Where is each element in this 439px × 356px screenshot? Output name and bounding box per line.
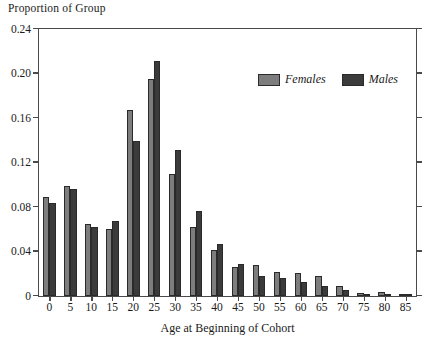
legend-swatch-males (342, 74, 364, 86)
y-axis-tick-label: 0 (25, 290, 31, 302)
bar-group (148, 29, 161, 296)
bar-group (378, 29, 391, 296)
x-axis-tick-label: 10 (86, 302, 98, 314)
bar-group (232, 29, 245, 296)
x-axis-tick-label: 40 (211, 302, 223, 314)
bar-group (315, 29, 328, 296)
bar-group (336, 29, 349, 296)
y-axis-tick-right (416, 161, 422, 162)
bar-group (211, 29, 224, 296)
y-axis-tick-label: 0.16 (11, 112, 31, 124)
y-axis-tick-right (416, 250, 422, 251)
bar-group (127, 29, 140, 296)
bar-group (295, 29, 308, 296)
bar-males-35 (196, 211, 202, 296)
legend-entry-females: Females (258, 72, 326, 87)
bar-males-15 (112, 221, 118, 296)
y-axis-tick-label: 0.04 (11, 246, 31, 258)
y-axis-tick-right (416, 28, 422, 29)
x-axis-title: Age at Beginning of Cohort (38, 321, 417, 336)
x-axis-tick-label: 20 (128, 302, 140, 314)
bars-layer (39, 29, 416, 296)
x-axis-tick-label: 0 (47, 302, 53, 314)
bar-group (253, 29, 266, 296)
bar-group (106, 29, 119, 296)
bar-group (274, 29, 287, 296)
y-axis-tick-right (416, 295, 422, 296)
bar-males-65 (322, 286, 328, 296)
x-axis-tick-label: 25 (148, 302, 160, 314)
bar-group (357, 29, 370, 296)
x-axis-tick-label: 45 (232, 302, 244, 314)
y-axis-title: Proportion of Group (8, 2, 106, 14)
bar-males-40 (217, 244, 223, 296)
chart-legend: FemalesMales (258, 72, 398, 87)
bar-males-75 (364, 294, 370, 296)
bar-group (43, 29, 56, 296)
bar-group (190, 29, 203, 296)
x-axis-tick-label: 50 (253, 302, 265, 314)
legend-label-males: Males (369, 72, 398, 87)
bar-males-20 (133, 141, 139, 296)
plot-area: 00.040.080.120.160.200.24051015202530354… (38, 28, 417, 297)
y-axis-tick-right (416, 72, 422, 73)
x-axis-tick-label: 55 (274, 302, 286, 314)
x-axis-tick-label: 60 (295, 302, 307, 314)
bar-group (64, 29, 77, 296)
bar-males-70 (343, 290, 349, 296)
x-axis-tick-label: 65 (316, 302, 328, 314)
bar-group (169, 29, 182, 296)
y-axis-tick-right (416, 117, 422, 118)
x-axis-tick-label: 70 (337, 302, 349, 314)
y-axis-tick-right (416, 206, 422, 207)
y-axis-tick-label: 0.08 (11, 201, 31, 213)
y-axis-tick-label: 0.12 (11, 157, 31, 169)
bar-males-25 (154, 61, 160, 296)
bar-group (399, 29, 412, 296)
bar-males-10 (91, 227, 97, 296)
legend-label-females: Females (285, 72, 326, 87)
x-axis-tick-label: 15 (107, 302, 119, 314)
bar-males-45 (238, 264, 244, 296)
bar-males-30 (175, 150, 181, 296)
legend-entry-males: Males (342, 72, 398, 87)
bar-males-60 (301, 282, 307, 296)
bar-group (85, 29, 98, 296)
bar-males-55 (280, 278, 286, 296)
bar-males-5 (70, 189, 76, 296)
legend-swatch-females (258, 74, 280, 86)
x-axis-tick-label: 30 (169, 302, 181, 314)
bar-males-0 (49, 203, 55, 296)
bar-chart-figure: Proportion of Group 00.040.080.120.160.2… (0, 0, 439, 356)
y-axis-tick-label: 0.20 (11, 68, 31, 80)
x-axis-tick-label: 85 (400, 302, 412, 314)
y-axis-tick-label: 0.24 (11, 23, 31, 35)
x-axis-tick-label: 35 (190, 302, 202, 314)
x-axis-tick-label: 5 (68, 302, 74, 314)
x-axis-tick-label: 75 (358, 302, 370, 314)
bar-males-50 (259, 276, 265, 296)
x-axis-tick-label: 80 (379, 302, 391, 314)
bar-males-80 (385, 294, 391, 296)
bar-males-85 (406, 294, 412, 296)
